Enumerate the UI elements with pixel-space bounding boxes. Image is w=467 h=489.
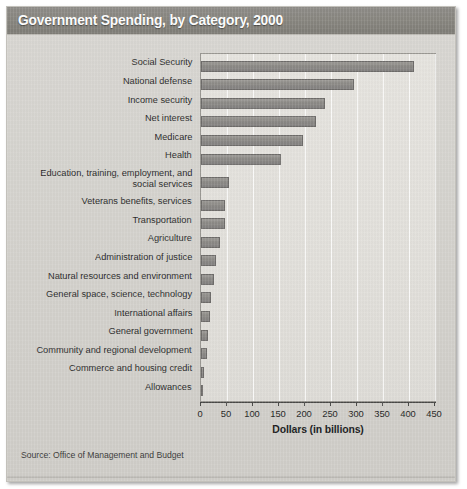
x-tick-label: 50 bbox=[221, 408, 231, 419]
gridline bbox=[331, 54, 332, 401]
x-tick bbox=[382, 402, 383, 406]
x-tick bbox=[356, 402, 357, 406]
x-tick bbox=[226, 402, 227, 406]
category-label: Natural resources and environment bbox=[48, 271, 192, 281]
plot-area bbox=[200, 53, 436, 402]
bar bbox=[201, 385, 203, 396]
source-note: Source: Office of Management and Budget bbox=[21, 450, 184, 460]
category-label-row: Veterans benefits, services bbox=[11, 192, 196, 211]
category-label-row: Transportation bbox=[11, 210, 196, 229]
bar bbox=[201, 79, 354, 90]
category-label: Agriculture bbox=[148, 233, 192, 243]
category-label-row: Health bbox=[11, 146, 196, 165]
category-label: Transportation bbox=[133, 215, 192, 225]
bar bbox=[201, 98, 325, 109]
chart-title-band: Government Spending, by Category, 2000 bbox=[7, 7, 455, 35]
category-label-row: Education, training, employment, and soc… bbox=[11, 164, 196, 192]
category-label-row: Income security bbox=[11, 90, 196, 109]
x-tick-label: 450 bbox=[426, 408, 442, 419]
bar bbox=[201, 135, 303, 146]
x-tick-label: 250 bbox=[322, 408, 338, 419]
x-axis-title: Dollars (in billions) bbox=[200, 424, 436, 435]
x-tick-label: 200 bbox=[296, 408, 312, 419]
x-tick bbox=[434, 402, 435, 406]
x-tick bbox=[408, 402, 409, 406]
category-label: Community and regional development bbox=[37, 345, 192, 355]
x-tick-label: 400 bbox=[400, 408, 416, 419]
bar bbox=[201, 292, 211, 303]
x-tick-label: 0 bbox=[197, 408, 202, 419]
category-label: Administration of justice bbox=[95, 252, 192, 262]
x-tick bbox=[278, 402, 279, 406]
bar bbox=[201, 348, 207, 359]
chart-card: Government Spending, by Category, 2000 S… bbox=[6, 6, 456, 482]
category-label-row: General space, science, technology bbox=[11, 285, 196, 304]
category-label: General government bbox=[108, 326, 192, 336]
category-label-row: National defense bbox=[11, 72, 196, 91]
bar bbox=[201, 311, 210, 322]
x-tick bbox=[252, 402, 253, 406]
page-title: Government Spending, by Category, 2000 bbox=[18, 12, 283, 28]
category-label-row: Commerce and housing credit bbox=[11, 359, 196, 378]
bar bbox=[201, 274, 214, 285]
category-label: International affairs bbox=[114, 308, 192, 318]
bottom-rule bbox=[7, 476, 455, 478]
bar bbox=[201, 255, 216, 266]
category-label: Medicare bbox=[154, 132, 192, 142]
bar bbox=[201, 237, 220, 248]
category-label: Social Security bbox=[131, 57, 192, 67]
chart-page: Government Spending, by Category, 2000 S… bbox=[0, 0, 467, 489]
chart-area: Social SecurityNational defenseIncome se… bbox=[11, 41, 451, 431]
category-label-row: Community and regional development bbox=[11, 340, 196, 359]
gridline bbox=[383, 54, 384, 401]
bar bbox=[201, 116, 316, 127]
category-label: Net interest bbox=[145, 113, 192, 123]
gridline bbox=[435, 54, 436, 401]
bar bbox=[201, 367, 204, 378]
category-label-row: Net interest bbox=[11, 109, 196, 128]
category-label-row: Medicare bbox=[11, 127, 196, 146]
category-label-row: General government bbox=[11, 322, 196, 341]
x-tick bbox=[304, 402, 305, 406]
bar bbox=[201, 177, 229, 188]
x-axis: 050100150200250300350400450 bbox=[200, 402, 436, 403]
gridline bbox=[357, 54, 358, 401]
x-tick-label: 150 bbox=[270, 408, 286, 419]
bar bbox=[201, 330, 208, 341]
bar bbox=[201, 200, 225, 211]
x-tick-label: 100 bbox=[244, 408, 260, 419]
category-label-row: International affairs bbox=[11, 303, 196, 322]
category-label-row: Natural resources and environment bbox=[11, 266, 196, 285]
gridline bbox=[409, 54, 410, 401]
category-label: Health bbox=[165, 150, 192, 160]
category-label: Commerce and housing credit bbox=[69, 363, 192, 373]
x-tick bbox=[200, 402, 201, 406]
bar bbox=[201, 154, 281, 165]
category-label: National defense bbox=[123, 76, 192, 86]
bar bbox=[201, 61, 414, 72]
bar bbox=[201, 218, 225, 229]
category-label-row: Social Security bbox=[11, 53, 196, 72]
x-tick bbox=[330, 402, 331, 406]
category-label-column: Social SecurityNational defenseIncome se… bbox=[11, 53, 196, 396]
category-label: Veterans benefits, services bbox=[82, 196, 192, 206]
category-label-row: Allowances bbox=[11, 377, 196, 396]
category-label: Income security bbox=[128, 95, 193, 105]
category-label: Allowances bbox=[145, 382, 192, 392]
category-label: Education, training, employment, and soc… bbox=[40, 167, 192, 190]
x-tick-label: 300 bbox=[348, 408, 364, 419]
category-label: General space, science, technology bbox=[46, 289, 192, 299]
x-tick-label: 350 bbox=[374, 408, 390, 419]
category-label-row: Agriculture bbox=[11, 229, 196, 248]
category-label-row: Administration of justice bbox=[11, 248, 196, 267]
